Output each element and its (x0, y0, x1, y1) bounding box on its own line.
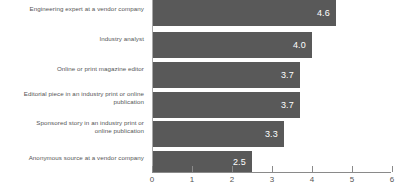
x-axis-tick (392, 166, 393, 172)
y-axis-line (152, 0, 153, 172)
plot-area: 4.6 4.0 3.7 3.7 3.3 2.5 (152, 0, 392, 172)
x-axis-tick (152, 166, 153, 172)
x-axis-tick (352, 166, 353, 172)
bar-value-label: 3.3 (256, 129, 278, 139)
x-axis-tick-label: 6 (382, 175, 396, 184)
x-axis-tick (272, 166, 273, 172)
x-axis-tick-label: 5 (342, 175, 362, 184)
category-label: Engineering expert at a vendor company (0, 5, 144, 13)
bar-value-label: 3.7 (272, 100, 294, 110)
category-label-column: Engineering expert at a vendor company I… (0, 0, 148, 172)
x-axis-tick-label: 0 (142, 175, 162, 184)
x-axis-tick-label: 2 (222, 175, 242, 184)
bar-value-label: 4.0 (284, 40, 306, 50)
x-axis-tick-label: 1 (182, 175, 202, 184)
category-label: Online or print magazine editor (0, 65, 144, 73)
x-axis-tick (232, 166, 233, 172)
category-label: Anonymous source at a vendor company (0, 154, 144, 162)
category-label: Industry analyst (0, 35, 144, 43)
bar-value-label: 3.7 (272, 70, 294, 80)
x-axis-tick (192, 166, 193, 172)
bar-value-label: 4.6 (308, 8, 330, 18)
x-axis-tick-label: 4 (302, 175, 322, 184)
x-axis-tick (312, 166, 313, 172)
category-label: Editorial piece in an industry print or … (0, 90, 144, 106)
x-axis-line (152, 172, 391, 173)
category-label: Sponsored story in an industry print or … (0, 119, 144, 135)
bar-value-label: 2.5 (224, 157, 246, 167)
horizontal-bar-chart: Engineering expert at a vendor company I… (0, 0, 396, 190)
x-axis-tick-label: 3 (262, 175, 282, 184)
